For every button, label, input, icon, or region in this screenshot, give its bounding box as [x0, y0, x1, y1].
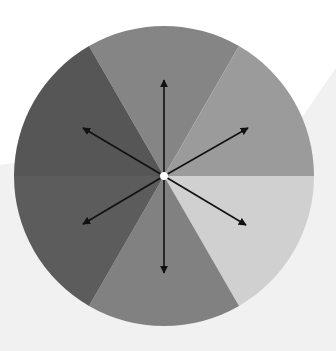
center-dot: [160, 172, 168, 180]
diagram-canvas: [0, 0, 336, 351]
sector-wheel-diagram: [0, 0, 336, 351]
